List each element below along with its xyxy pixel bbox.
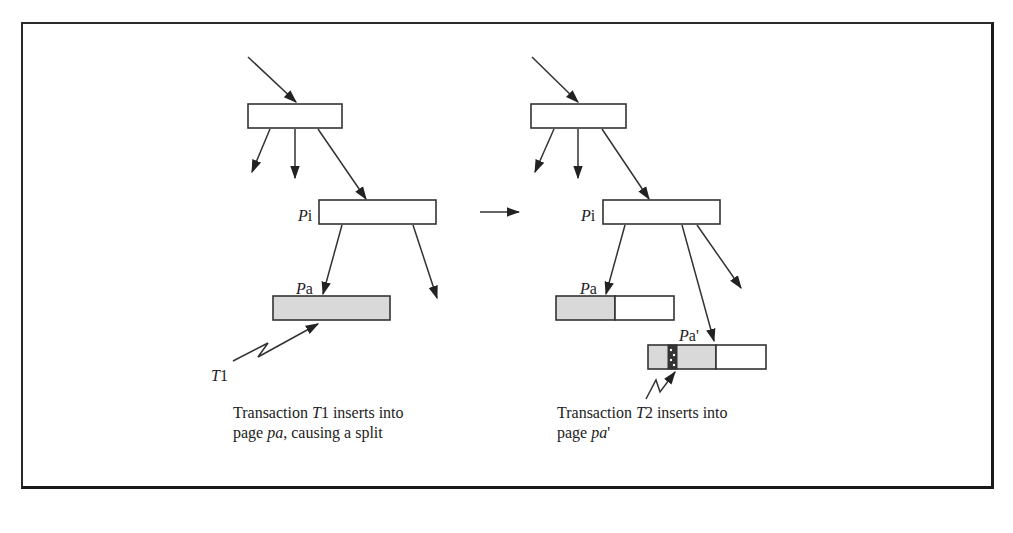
right-panel: Pi Pa Pa' Transaction T2 inserts into pa… (531, 57, 766, 442)
right-caption-line2: page pa' (557, 424, 610, 442)
left-caption-line1: Transaction T1 inserts into (233, 404, 404, 421)
arrow-icon (606, 225, 625, 294)
arrow-icon (697, 225, 741, 288)
arrow-icon (248, 57, 296, 102)
arrow-icon (252, 129, 270, 172)
arrow-icon (323, 225, 342, 294)
btree-split-diagram: Pi Pa T1 Transaction T1 inserts into pag… (0, 0, 1013, 533)
node-pi (603, 200, 720, 224)
node-pa-prime-free (716, 345, 766, 369)
arrow-icon (532, 57, 578, 102)
arrow-icon (602, 129, 649, 199)
node-pi (319, 200, 436, 224)
arrow-icon (318, 129, 366, 199)
node-pa-label: Pa (579, 280, 597, 297)
transaction-t1-arrow-icon (233, 324, 318, 361)
root-node (248, 104, 342, 128)
node-pa-prime-label: Pa' (678, 327, 699, 344)
transaction-t2-arrow-icon (646, 372, 675, 399)
node-pa-prime-used (648, 345, 716, 369)
node-pa (273, 296, 390, 320)
node-pa-free (615, 296, 674, 320)
node-pi-label: Pi (580, 207, 596, 224)
node-pi-label: Pi (297, 207, 313, 224)
node-pa-used (556, 296, 615, 320)
inserted-record-marker (668, 345, 677, 369)
arrow-icon (535, 129, 554, 172)
node-pa-label: Pa (295, 280, 313, 297)
root-node (531, 104, 626, 128)
arrow-icon (413, 225, 437, 298)
left-caption-line2: page pa, causing a split (233, 424, 383, 442)
transaction-t1-label: T1 (211, 367, 228, 384)
right-caption-line1: Transaction T2 inserts into (557, 404, 728, 421)
left-panel: Pi Pa T1 Transaction T1 inserts into pag… (211, 57, 437, 442)
